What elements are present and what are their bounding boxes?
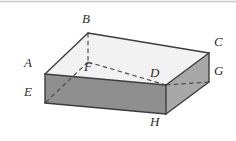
vertex-label-A: A bbox=[24, 56, 32, 69]
vertex-label-D: D bbox=[150, 66, 159, 79]
prism-drawing bbox=[0, 0, 236, 141]
vertex-label-G: G bbox=[214, 64, 223, 77]
vertex-label-E: E bbox=[24, 85, 32, 98]
vertex-label-H: H bbox=[150, 115, 159, 128]
vertex-label-F: F bbox=[84, 60, 92, 73]
vertex-label-C: C bbox=[214, 35, 223, 48]
vertex-label-B: B bbox=[82, 12, 90, 25]
geometry-figure: A B C D E F G H bbox=[0, 0, 236, 141]
